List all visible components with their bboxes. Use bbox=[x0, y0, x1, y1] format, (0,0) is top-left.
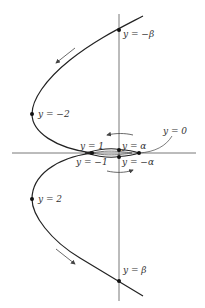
flow-arrow-upper bbox=[56, 48, 75, 63]
point-neg-two bbox=[30, 112, 34, 116]
label-alpha: y = α bbox=[122, 142, 146, 151]
point-one bbox=[90, 151, 94, 155]
label-neg-two: y = −2 bbox=[38, 110, 70, 119]
label-neg-alpha: y = −α bbox=[122, 158, 154, 167]
label-neg-beta: y = −β bbox=[123, 30, 154, 39]
point-beta bbox=[117, 279, 121, 283]
flow-arrow-top-left bbox=[107, 134, 133, 136]
label-zero: y = 0 bbox=[163, 127, 187, 136]
phase-diagram bbox=[0, 0, 205, 308]
point-zero bbox=[137, 151, 141, 155]
label-beta: y = β bbox=[123, 266, 147, 275]
flow-arrow-lower bbox=[56, 249, 75, 264]
point-two bbox=[30, 197, 34, 201]
label-one: y = 1 bbox=[80, 142, 104, 151]
point-alpha bbox=[117, 148, 121, 152]
point-neg-alpha bbox=[117, 155, 121, 159]
flow-arrow-bottom-right bbox=[107, 170, 133, 172]
point-neg-beta bbox=[117, 28, 121, 32]
label-neg-one: y = −1 bbox=[76, 158, 108, 167]
label-two: y = 2 bbox=[38, 195, 62, 204]
